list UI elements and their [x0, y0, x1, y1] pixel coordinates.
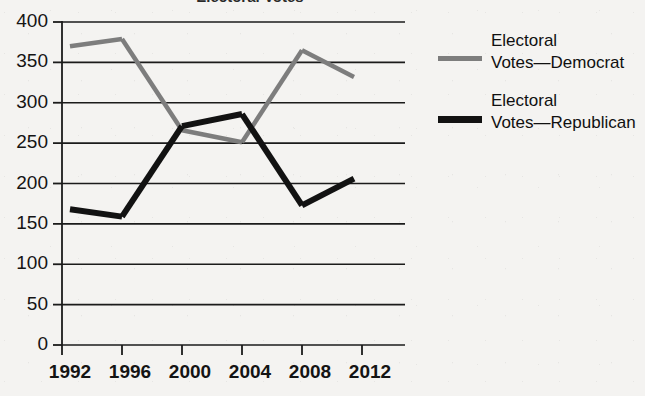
legend-label-republican: Electoral Votes—Republican — [491, 90, 636, 134]
y-tick-label: 0 — [0, 333, 48, 355]
legend-swatch-democrat-icon — [438, 56, 482, 61]
y-tick-label: 100 — [0, 252, 48, 274]
y-tick-label: 350 — [0, 50, 48, 72]
chart-legend: Electoral Votes—Democrat Electoral Votes… — [438, 30, 643, 150]
x-tick-label: 2008 — [280, 361, 340, 383]
series-segment — [182, 114, 242, 126]
series-segment — [122, 126, 182, 216]
x-tick-label: 1996 — [100, 361, 160, 383]
y-tick-label: 300 — [0, 91, 48, 113]
x-tick-label: 1992 — [40, 361, 100, 383]
x-tick-label: 2004 — [220, 361, 280, 383]
series-segment — [302, 50, 354, 77]
legend-swatch-republican-icon — [438, 116, 482, 123]
legend-label-democrat: Electoral Votes—Democrat — [491, 30, 624, 74]
series-segment — [122, 39, 182, 130]
chart-figure: Electoral Votes 050100150200250300350400… — [0, 0, 645, 396]
y-tick-label: 200 — [0, 172, 48, 194]
x-tick-label: 2000 — [160, 361, 220, 383]
series-segment — [302, 179, 354, 206]
legend-item-republican[interactable]: Electoral Votes—Republican — [438, 90, 643, 134]
y-tick-label: 250 — [0, 131, 48, 153]
series-segment — [182, 130, 242, 142]
x-tick-label: 2012 — [340, 361, 400, 383]
y-tick-label: 150 — [0, 212, 48, 234]
series-segment — [70, 39, 122, 46]
series-segment — [70, 209, 122, 216]
legend-item-democrat[interactable]: Electoral Votes—Democrat — [438, 30, 643, 74]
series-segment — [242, 114, 302, 205]
y-tick-label: 50 — [0, 293, 48, 315]
y-tick-label: 400 — [0, 10, 48, 32]
